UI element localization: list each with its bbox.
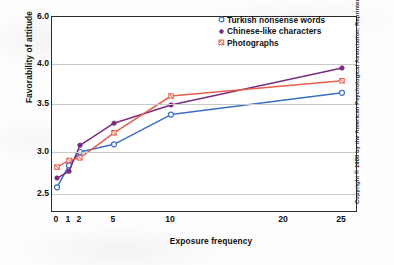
series-3: [55, 79, 344, 170]
gridline: [52, 152, 356, 153]
gridline: [52, 194, 356, 195]
open-circle-icon: [216, 16, 227, 23]
chart-legend: Turkish nonsense wordsChinese-like chara…: [216, 14, 325, 49]
series-1: [55, 90, 345, 189]
legend-item[interactable]: Chinese-like characters: [216, 26, 325, 38]
x-tick-label: 5: [111, 214, 116, 224]
x-tick-label: 2: [77, 214, 82, 224]
x-tick-label: 0: [54, 214, 59, 224]
data-point-marker: [112, 121, 117, 126]
x-tick-label: 25: [336, 214, 346, 224]
series-line: [57, 81, 342, 167]
data-point-marker: [67, 169, 72, 174]
x-axis-title: Exposure frequency: [0, 236, 394, 246]
chart-figure: Favorability of attitude 2.53.03.54.06.0…: [0, 0, 394, 265]
x-axis-tick-labels: 0125102025: [0, 214, 394, 230]
y-tick-label: 3.0: [9, 146, 49, 156]
y-tick-label: 3.5: [9, 98, 49, 108]
legend-item-label: Turkish nonsense words: [227, 15, 325, 25]
data-point-marker: [78, 143, 83, 148]
data-point-marker: [55, 176, 60, 181]
data-point-marker: [340, 66, 345, 71]
y-tick-label: 6.0: [9, 11, 49, 21]
gridline: [52, 104, 356, 105]
cross-square-icon: [216, 39, 227, 46]
data-point-marker: [169, 112, 174, 117]
x-tick-label: 10: [165, 214, 175, 224]
x-tick-label: 1: [66, 214, 71, 224]
y-tick-label: 2.5: [9, 188, 49, 198]
legend-item-label: Chinese-like characters: [227, 26, 321, 36]
data-point-marker: [340, 90, 345, 95]
legend-item-label: Photographs: [227, 38, 279, 48]
data-point-marker: [55, 185, 60, 190]
series-2: [55, 66, 345, 181]
copyright-notice: Copyright © 1988 by the American Psychol…: [354, 0, 360, 204]
series-line: [57, 93, 342, 187]
legend-item[interactable]: Turkish nonsense words: [216, 14, 325, 26]
y-tick-label: 4.0: [9, 58, 49, 68]
filled-circle-icon: [216, 28, 227, 35]
gridline: [52, 64, 356, 65]
x-tick-label: 20: [278, 214, 288, 224]
legend-item[interactable]: Photographs: [216, 37, 325, 49]
data-point-marker: [112, 142, 117, 147]
